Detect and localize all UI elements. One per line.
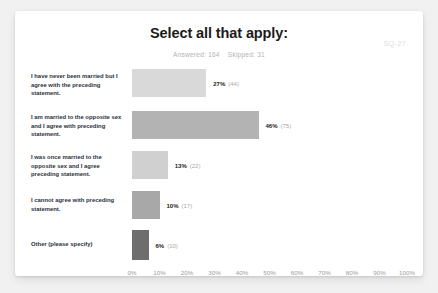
axis-tick-label: 0% xyxy=(128,269,137,276)
bar-category-label: Other (please specify) xyxy=(31,240,123,249)
bar-value-label: 13%(22) xyxy=(175,163,201,169)
bar-percent: 6% xyxy=(156,243,165,249)
bar-percent: 10% xyxy=(167,203,179,209)
bar-track: 27%(44) xyxy=(132,69,407,109)
bar-count: (44) xyxy=(228,81,239,87)
survey-result-card: Select all that apply: Answered: 164 Ski… xyxy=(15,11,423,276)
bar-count: (17) xyxy=(182,203,193,209)
bar-row: I cannot agree with preceding statement.… xyxy=(31,189,407,229)
axis-tick-label: 40% xyxy=(236,269,248,276)
bar-track: 46%(75) xyxy=(132,109,407,149)
screenshot-root: Select all that apply: Answered: 164 Ski… xyxy=(0,0,438,293)
bar[interactable] xyxy=(132,230,149,260)
skipped-count: Skipped: 31 xyxy=(228,51,265,58)
bar-track: 13%(22) xyxy=(132,149,407,189)
bar-row: Other (please specify)6%(10) xyxy=(31,229,407,269)
axis-tick-label: 90% xyxy=(373,269,385,276)
bar-value-label: 27%(44) xyxy=(213,81,239,87)
axis-tick-label: 50% xyxy=(263,269,275,276)
axis-tick-label: 80% xyxy=(346,269,358,276)
bar-chart: I have never been married but I agree wi… xyxy=(31,69,407,267)
page-title: Select all that apply: xyxy=(15,25,423,41)
bar-category-label: I cannot agree with preceding statement. xyxy=(31,196,123,213)
question-code-watermark: SQ-27 xyxy=(384,40,406,47)
axis-tick-label: 20% xyxy=(181,269,193,276)
axis-tick-label: 10% xyxy=(153,269,165,276)
bar-value-label: 6%(10) xyxy=(156,243,178,249)
bar[interactable] xyxy=(132,191,160,219)
axis-tick-label: 100% xyxy=(399,269,415,276)
bar-category-label: I am married to the opposite sex and I a… xyxy=(31,113,123,139)
axis-tick-label: 70% xyxy=(318,269,330,276)
bar-percent: 46% xyxy=(266,123,278,129)
axis-tick-label: 60% xyxy=(291,269,303,276)
bar-count: (10) xyxy=(167,243,178,249)
bar-category-label: I have never been married but I agree wi… xyxy=(31,72,123,98)
bar[interactable] xyxy=(132,151,168,179)
bar-value-label: 10%(17) xyxy=(167,203,193,209)
bar[interactable] xyxy=(132,69,206,97)
bar[interactable] xyxy=(132,111,259,139)
bar-row: I have never been married but I agree wi… xyxy=(31,69,407,109)
x-axis: 0%10%20%30%40%50%60%70%80%90%100% xyxy=(132,269,412,281)
bar-count: (22) xyxy=(190,163,201,169)
bar-percent: 27% xyxy=(213,81,225,87)
bar-track: 10%(17) xyxy=(132,189,407,229)
bar-track: 6%(10) xyxy=(132,229,407,269)
bar-value-label: 46%(75) xyxy=(266,123,292,129)
bar-percent: 13% xyxy=(175,163,187,169)
bar-row: I was once married to the opposite sex a… xyxy=(31,149,407,189)
response-summary: Answered: 164 Skipped: 31 xyxy=(15,51,423,58)
bar-row: I am married to the opposite sex and I a… xyxy=(31,109,407,149)
bar-count: (75) xyxy=(281,123,292,129)
answered-count: Answered: 164 xyxy=(173,51,220,58)
axis-tick-label: 30% xyxy=(208,269,220,276)
bar-category-label: I was once married to the opposite sex a… xyxy=(31,153,123,179)
